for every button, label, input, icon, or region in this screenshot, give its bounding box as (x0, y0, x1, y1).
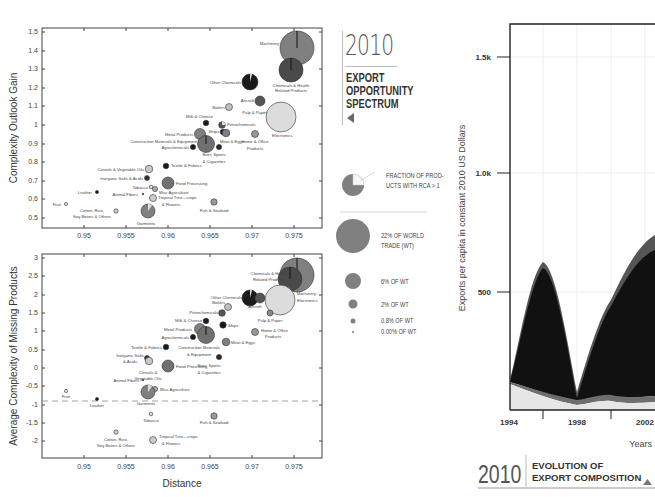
point-labels: Machinery Chemicals & Health Related Pro… (53, 41, 310, 226)
svg-text:Fish & Seafood: Fish & Seafood (200, 208, 229, 213)
size-legend-label-2pct: 2% OF WT (381, 300, 409, 310)
bubble-food-processing[interactable] (162, 177, 174, 189)
bubble-textile[interactable] (163, 344, 169, 350)
bubble-meat-eggs[interactable] (222, 338, 230, 346)
expand-up-arrow-icon[interactable] (643, 479, 652, 485)
bubble-leather[interactable] (95, 190, 98, 193)
svg-text:Aircraft: Aircraft (241, 98, 255, 103)
size-legend-label-22pct: 22% OF WORLD (381, 231, 424, 241)
svg-text:Boilers: Boilers (212, 105, 225, 110)
svg-text:0.8: 0.8 (28, 158, 38, 165)
svg-text:0.7: 0.7 (28, 177, 38, 184)
bubble-aircraft[interactable] (255, 96, 265, 106)
opportunity-legend-panel: 2010 EXPORT OPPORTUNITY SPECTRUM FRACTIO… (335, 0, 445, 330)
svg-text:1.4: 1.4 (28, 47, 38, 54)
bubble-beer-spirits[interactable] (216, 144, 221, 149)
bubble-cotton-rice[interactable] (114, 209, 118, 213)
svg-text:1: 1 (34, 327, 38, 334)
bubble-tropical-tree[interactable] (150, 437, 157, 444)
bubble-milk-cheese[interactable] (203, 318, 209, 324)
bubble-tobacco[interactable] (149, 412, 153, 416)
size-legend-label-0-8pct: 0.8% OF WT (381, 316, 413, 326)
svg-text:0.95: 0.95 (77, 463, 91, 470)
bubble-ships[interactable] (220, 322, 226, 328)
svg-text:Leather: Leather (78, 190, 93, 195)
svg-text:-1.5: -1.5 (26, 419, 38, 426)
svg-text:Inorganic Salts: Inorganic Salts (116, 353, 144, 358)
svg-text:1.5: 1.5 (28, 28, 38, 35)
bubble-electronics[interactable] (266, 102, 296, 132)
svg-text:Garments: Garments (137, 401, 155, 406)
svg-text:Tobacco: Tobacco (143, 418, 159, 423)
svg-text:Home & Office: Home & Office (261, 328, 289, 333)
svg-text:Machinery: Machinery (297, 291, 317, 296)
svg-text:0.5: 0.5 (28, 346, 38, 353)
bubble-food-processing[interactable] (162, 360, 174, 372)
svg-text:Pulp & Paper: Pulp & Paper (258, 318, 283, 323)
bubble-fruit[interactable] (64, 389, 67, 392)
svg-text:Cotton, Rice,: Cotton, Rice, (80, 208, 104, 213)
panel-divider (342, 31, 343, 125)
svg-text:1.5: 1.5 (28, 309, 38, 316)
size-2pct-icon (349, 300, 358, 309)
collapse-left-arrow-icon[interactable] (347, 113, 354, 123)
svg-text:Fish & Seafood: Fish & Seafood (200, 420, 229, 425)
size-6pct-icon (345, 273, 361, 289)
pie-legend-label-2: UCTS WITH RCA > 1 (386, 181, 440, 191)
svg-text:Pulp & Paper: Pulp & Paper (242, 110, 267, 115)
bubble-agrochemicals[interactable] (190, 144, 195, 149)
svg-text:Fruit: Fruit (62, 394, 71, 399)
svg-text:Soy Beans & Others: Soy Beans & Others (97, 443, 135, 448)
bubble-agrochemicals[interactable] (190, 334, 195, 339)
bubble-fruit[interactable] (64, 202, 67, 205)
bubble-petrochemicals[interactable] (219, 310, 226, 317)
svg-text:Animal Fibers: Animal Fibers (113, 378, 139, 383)
bubble-milk-cheese[interactable] (203, 120, 209, 126)
svg-text:Products: Products (247, 146, 264, 151)
bubble-animal-fibers[interactable] (142, 193, 144, 195)
bubble-leather[interactable] (95, 397, 98, 400)
bubble-boilers[interactable] (226, 104, 233, 111)
y-tick-labels: 0.5 0.6 0.7 0.8 0.9 1 1.1 1.2 1.3 1.4 1.… (28, 28, 38, 221)
panel-year: 2010 (345, 31, 393, 61)
svg-text:0.975: 0.975 (285, 463, 303, 470)
bubble-cotton-rice[interactable] (114, 430, 118, 434)
bubble-aircraft[interactable] (255, 293, 265, 303)
svg-text:Beer, Sports: Beer, Sports (197, 363, 220, 368)
bubble-textile[interactable] (163, 163, 169, 169)
bubble-meat-eggs[interactable] (222, 129, 230, 137)
svg-text:0.9: 0.9 (28, 140, 38, 147)
svg-text:0.975: 0.975 (285, 232, 303, 239)
svg-text:Petrochemicals: Petrochemicals (227, 122, 256, 127)
bubble-beer-spirits[interactable] (216, 354, 221, 359)
footer-title-line2: EXPORT COMPOSITION (532, 472, 641, 483)
svg-text:0.965: 0.965 (201, 463, 219, 470)
footer-title-line1: EVOLUTION OF (532, 460, 603, 471)
bubble-fish-seafood[interactable] (211, 413, 217, 419)
svg-text:Cereals &: Cereals & (139, 370, 158, 375)
bubble-tropical-tree[interactable] (150, 195, 157, 202)
svg-text:1.5k: 1.5k (475, 53, 491, 62)
svg-text:Related Products: Related Products (253, 277, 285, 282)
bubble-cereals[interactable] (145, 357, 153, 365)
bubble-inorganic-salts[interactable] (145, 176, 150, 181)
bubble-pulp-paper[interactable] (267, 310, 273, 316)
bubble-misc-agriculture[interactable] (152, 186, 157, 191)
svg-text:Products: Products (265, 334, 282, 339)
bubble-home-office[interactable] (252, 329, 259, 336)
svg-text:-2: -2 (32, 437, 38, 444)
y-axis-label: Exports per capita in constant 2010 US D… (457, 124, 467, 311)
svg-text:Tropical Tree—crops: Tropical Tree—crops (158, 195, 197, 200)
svg-text:Machinery: Machinery (260, 41, 280, 46)
svg-text:1998: 1998 (568, 418, 586, 427)
bubble-cereals[interactable] (145, 165, 153, 173)
svg-text:& Equipment: & Equipment (187, 352, 212, 357)
bubble-boilers[interactable] (225, 304, 232, 311)
svg-text:0: 0 (34, 364, 38, 371)
svg-text:-0.5: -0.5 (26, 382, 38, 389)
bubble-home-office[interactable] (252, 131, 259, 138)
svg-text:500: 500 (478, 288, 492, 297)
size-0-8pct-icon (351, 319, 356, 324)
svg-text:0.6: 0.6 (28, 195, 38, 202)
bubble-fish-seafood[interactable] (211, 199, 217, 205)
